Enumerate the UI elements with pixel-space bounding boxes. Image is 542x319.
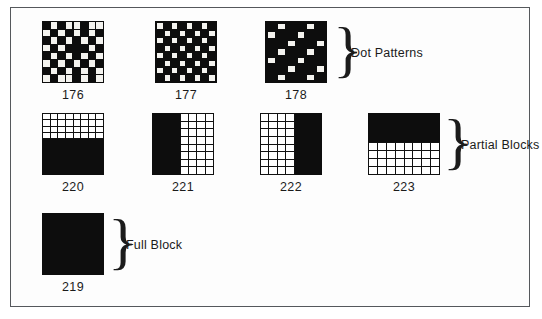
glyph-178 — [265, 21, 327, 83]
glyph-177 — [155, 21, 217, 83]
mesh-cell — [396, 167, 405, 175]
mesh-cell — [413, 159, 422, 167]
dot-cell — [172, 31, 177, 36]
dot-cell — [43, 68, 49, 74]
dot-cell — [278, 41, 285, 46]
mesh-cell — [413, 143, 422, 151]
mesh-cell — [189, 129, 197, 137]
mesh-cell — [181, 152, 189, 160]
dot-cell — [58, 60, 64, 66]
group-label-full-block: Full Block — [126, 238, 182, 252]
mesh-cell — [431, 167, 440, 175]
dot-cell — [187, 31, 192, 36]
mesh-cell — [269, 129, 277, 137]
dot-cell — [157, 61, 162, 66]
dot-cell — [66, 75, 72, 81]
dot-cell — [180, 46, 185, 51]
mesh-cell — [286, 137, 294, 145]
caption-177: 177 — [155, 88, 217, 102]
dot-cell — [268, 32, 275, 37]
dot-cell — [96, 37, 102, 43]
dot-cell — [81, 37, 87, 43]
dot-cell — [298, 75, 305, 80]
dot-cell — [89, 30, 95, 36]
dot-cell — [81, 75, 87, 81]
partial-222 — [260, 113, 322, 175]
caption-223: 223 — [368, 180, 440, 194]
dot-cell — [180, 23, 185, 28]
dot-cell — [278, 49, 285, 54]
dot-cell — [195, 68, 200, 73]
dot-cell — [51, 37, 57, 43]
dot-cell — [81, 45, 87, 51]
mesh-cell — [261, 129, 269, 137]
dot-cell — [195, 61, 200, 66]
dot-cell — [202, 31, 207, 36]
specimen-221: 221 — [152, 113, 214, 194]
mesh-cell — [387, 151, 396, 159]
dot-cell — [180, 75, 185, 80]
dot-cell — [195, 75, 200, 80]
dot-cell — [157, 46, 162, 51]
mesh-cell — [431, 159, 440, 167]
mesh-cell — [405, 167, 414, 175]
dot-cell — [165, 46, 170, 51]
dot-cell — [157, 68, 162, 73]
dot-cell — [51, 45, 57, 51]
mesh-cell — [405, 159, 414, 167]
dot-cell — [180, 61, 185, 66]
mesh-cell — [269, 167, 277, 175]
glyph-223 — [368, 113, 440, 175]
specimen-176: 176 — [42, 21, 104, 102]
dot-cell — [43, 53, 49, 59]
dot-cell — [180, 53, 185, 58]
dot-cell — [317, 49, 324, 54]
mesh-cell — [189, 114, 197, 122]
dot-cell — [298, 66, 305, 71]
dot-cell — [157, 31, 162, 36]
mesh-cell — [206, 167, 214, 175]
dot-cell — [195, 53, 200, 58]
dot-cell — [202, 61, 207, 66]
mesh-cell — [189, 160, 197, 168]
dot-cell — [202, 46, 207, 51]
dot-cell — [81, 68, 87, 74]
dot-cell — [165, 61, 170, 66]
dot-cell — [288, 58, 295, 63]
specimen-178: 178 — [265, 21, 327, 102]
mesh-cell — [278, 145, 286, 153]
dot-cell — [288, 32, 295, 37]
mesh-cell — [261, 145, 269, 153]
dot-cell — [66, 53, 72, 59]
dot-cell — [74, 30, 80, 36]
dot-cell — [268, 66, 275, 71]
dot-cell — [96, 68, 102, 74]
mesh-cell — [269, 160, 277, 168]
dot-cell — [187, 53, 192, 58]
mesh-cell — [197, 114, 205, 122]
dot-cell — [180, 38, 185, 43]
dot-cell — [51, 30, 57, 36]
dot-cell — [165, 53, 170, 58]
dot-cell — [89, 75, 95, 81]
mesh-cell — [387, 143, 396, 151]
mesh-cell — [369, 143, 378, 151]
dot-cell — [74, 22, 80, 28]
caption-178: 178 — [265, 88, 327, 102]
dot-cell — [165, 75, 170, 80]
dot-cell — [278, 58, 285, 63]
mesh-cell — [396, 143, 405, 151]
dot-cell — [58, 68, 64, 74]
mesh-cell — [197, 129, 205, 137]
specimen-219: 219 — [42, 213, 104, 294]
mesh-cell — [261, 167, 269, 175]
dot-cell — [209, 68, 214, 73]
dot-cell — [81, 60, 87, 66]
dot-cell — [51, 75, 57, 81]
dot-cell — [209, 38, 214, 43]
mesh-cell — [189, 145, 197, 153]
dot-cell — [209, 61, 214, 66]
dot-cell — [288, 24, 295, 29]
dot-cell — [317, 58, 324, 63]
mesh-cell — [286, 114, 294, 122]
